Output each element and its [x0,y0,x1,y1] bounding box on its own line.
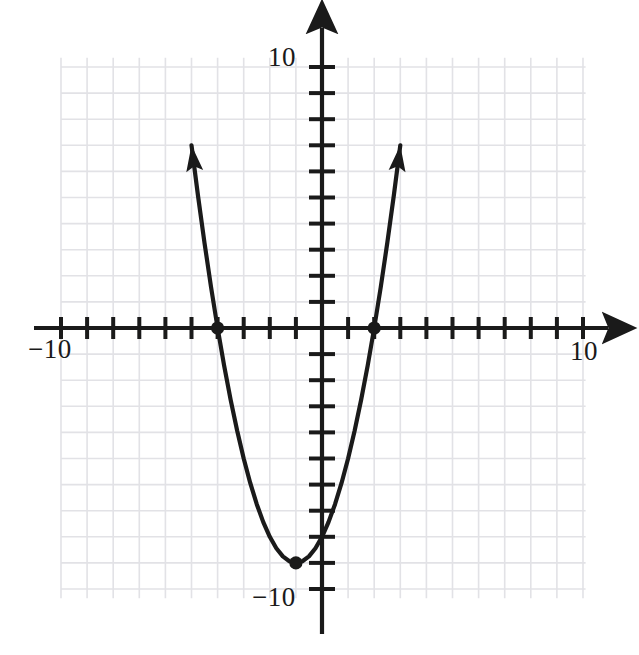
x-axis-left-label: −10 [28,336,72,363]
root-left-point [211,321,224,334]
coordinate-plane [0,0,639,655]
graph-figure: 10 −10 −10 10 [0,0,639,655]
root-right-point [368,321,381,334]
y-axis-top-label: 10 [268,44,296,71]
y-axis-bottom-label: −10 [252,584,296,611]
x-axis-right-label: 10 [570,338,598,365]
vertex-point [289,556,302,569]
